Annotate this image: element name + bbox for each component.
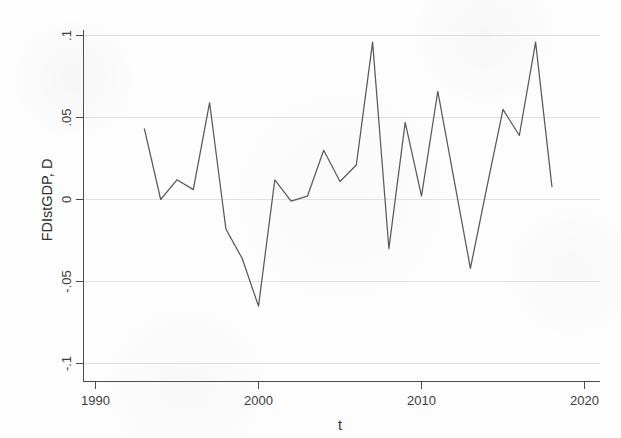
- line-chart: .1 .05 0 -.05 -.1 FDIstGDP, D 1990 2000 …: [0, 0, 621, 438]
- y-tick-label-0: .1: [59, 30, 74, 41]
- x-tick-label-2020: 2020: [570, 393, 599, 408]
- y-axis-title: FDIstGDP, D: [39, 159, 55, 242]
- x-tick-label-1990: 1990: [81, 393, 110, 408]
- x-axis-title: t: [338, 417, 342, 433]
- x-tick-label-2000: 2000: [244, 393, 273, 408]
- y-tick-label-4: -.1: [59, 356, 74, 371]
- y-tick-label-1: .05: [59, 108, 74, 126]
- y-axis: .1 .05 0 -.05 -.1 FDIstGDP, D: [39, 30, 84, 382]
- series-line-fdistgdp: [144, 42, 552, 306]
- y-tick-label-2: 0: [59, 196, 74, 203]
- chart-container: .1 .05 0 -.05 -.1 FDIstGDP, D 1990 2000 …: [0, 0, 621, 438]
- x-axis: 1990 2000 2010 2020 t: [81, 382, 600, 434]
- x-tick-label-2010: 2010: [407, 393, 436, 408]
- y-tick-label-3: -.05: [59, 270, 74, 292]
